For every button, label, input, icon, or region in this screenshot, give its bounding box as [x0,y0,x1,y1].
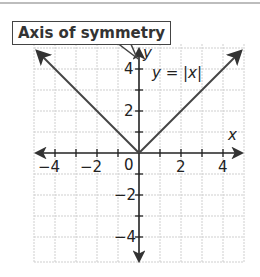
x-tick-label: 2 [176,160,186,175]
x-tick-label: −4 [38,160,60,175]
origin-label: 0 [124,158,134,173]
y-tick-label: −2 [114,188,136,203]
x-tick-label: −2 [80,160,102,175]
y-tick-label: 2 [124,104,134,119]
axis-of-symmetry-callout: Axis of symmetry [12,21,171,45]
y-axis-label: y [143,46,152,61]
y-tick-label: 4 [124,62,134,77]
equation-label: y = |x| [152,66,202,81]
y-tick-label: −4 [114,230,136,245]
x-tick-label: 4 [218,160,228,175]
x-axis-label: x [228,128,237,143]
